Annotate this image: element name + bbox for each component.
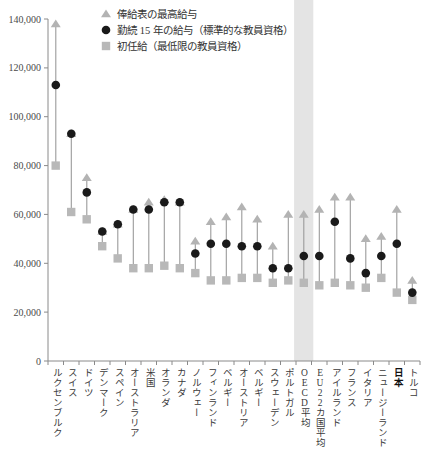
- marker-starting-salary: [284, 276, 292, 284]
- marker-starting-salary: [315, 281, 323, 289]
- x-axis-category-label: スペイン: [113, 368, 123, 408]
- marker-starting-salary: [300, 279, 308, 287]
- x-axis-category-label: EU22カ国平均: [315, 368, 325, 448]
- y-axis-tick-label: 60,000: [14, 209, 42, 220]
- x-axis-category-label: ルクセンブルク: [51, 368, 61, 438]
- marker-starting-salary: [331, 279, 339, 287]
- marker-starting-salary: [362, 284, 370, 292]
- y-axis-tick-label: 80,000: [14, 160, 42, 171]
- x-axis-category-label: ドイツ: [82, 368, 92, 398]
- y-axis-tick-label: 40,000: [14, 258, 42, 269]
- marker-top-of-scale-salary: [268, 242, 278, 250]
- marker-top-of-scale-salary: [252, 215, 262, 223]
- marker-15-years-salary: [284, 264, 293, 273]
- marker-starting-salary: [83, 215, 91, 223]
- marker-top-of-scale-salary: [392, 205, 402, 213]
- marker-top-of-scale-salary: [407, 276, 417, 284]
- marker-top-of-scale-salary: [237, 203, 247, 211]
- marker-starting-salary: [52, 161, 60, 169]
- marker-top-of-scale-salary: [345, 193, 355, 201]
- marker-15-years-salary: [222, 239, 231, 248]
- marker-15-years-salary: [408, 288, 417, 297]
- marker-15-years-salary: [253, 242, 262, 251]
- marker-15-years-salary: [393, 239, 402, 248]
- legend-triangle-icon: [101, 10, 111, 18]
- marker-starting-salary: [98, 242, 106, 250]
- marker-starting-salary: [114, 254, 122, 262]
- marker-starting-salary: [222, 276, 230, 284]
- x-axis-category-label: オーストラリア: [129, 368, 139, 438]
- y-axis-tick-label: 0: [36, 356, 41, 367]
- marker-starting-salary: [67, 208, 75, 216]
- x-axis-category-label: スイス: [67, 368, 77, 398]
- marker-top-of-scale-salary: [206, 217, 216, 225]
- x-axis-category-label: アイルランド: [330, 368, 340, 428]
- marker-15-years-salary: [346, 254, 355, 263]
- x-axis-category-label: 米国: [144, 368, 154, 388]
- marker-starting-salary: [191, 269, 199, 277]
- marker-starting-salary: [346, 281, 354, 289]
- x-axis-category-label: カナダ: [175, 368, 185, 398]
- marker-top-of-scale-salary: [376, 232, 386, 240]
- marker-top-of-scale-salary: [361, 234, 371, 242]
- y-axis-tick-label: 20,000: [14, 307, 42, 318]
- marker-starting-salary: [393, 288, 401, 296]
- marker-top-of-scale-salary: [330, 193, 340, 201]
- x-axis-category-label: スウェーデン: [268, 368, 278, 428]
- marker-starting-salary: [238, 274, 246, 282]
- marker-starting-salary: [269, 279, 277, 287]
- legend-item-label: 俸給表の最高給与: [117, 8, 197, 20]
- x-axis-category-label: OECD平均: [299, 368, 309, 428]
- marker-15-years-salary: [269, 264, 278, 273]
- x-axis-category-label: イタリア: [361, 368, 371, 408]
- x-axis-category-label: トルコ: [408, 368, 418, 398]
- marker-starting-salary: [145, 264, 153, 272]
- marker-top-of-scale-salary: [82, 173, 92, 181]
- marker-15-years-salary: [67, 130, 76, 139]
- marker-top-of-scale-salary: [314, 205, 324, 213]
- x-axis-category-label: フランス: [346, 368, 356, 408]
- x-axis-category-label: ノルウェー: [191, 368, 201, 418]
- marker-15-years-salary: [145, 205, 154, 214]
- marker-starting-salary: [253, 274, 261, 282]
- legend-item-label: 勤続 15 年の給与（標準的な教員資格）: [117, 24, 293, 36]
- marker-15-years-salary: [315, 252, 324, 261]
- x-axis-category-label: フィンランド: [206, 368, 216, 428]
- salary-scatter-chart: 020,00040,00060,00080,000100,000120,0001…: [0, 0, 427, 457]
- marker-15-years-salary: [300, 252, 309, 261]
- marker-starting-salary: [408, 296, 416, 304]
- marker-15-years-salary: [176, 198, 185, 207]
- marker-15-years-salary: [98, 227, 107, 236]
- marker-starting-salary: [377, 274, 385, 282]
- marker-15-years-salary: [129, 205, 138, 214]
- marker-15-years-salary: [83, 188, 92, 197]
- marker-top-of-scale-salary: [221, 212, 231, 220]
- marker-starting-salary: [176, 264, 184, 272]
- marker-15-years-salary: [160, 198, 169, 207]
- x-axis-category-label: デンマーク: [98, 368, 108, 418]
- marker-15-years-salary: [362, 269, 371, 278]
- x-axis-category-label: ポルトガル: [284, 368, 294, 418]
- legend-square-icon: [102, 42, 110, 50]
- x-axis-category-label: ベルギー: [253, 368, 263, 408]
- x-axis-category-label: オーストリア: [237, 368, 247, 428]
- marker-15-years-salary: [114, 220, 123, 229]
- marker-top-of-scale-salary: [190, 237, 200, 245]
- marker-15-years-salary: [207, 239, 216, 248]
- x-axis-category-label: ベルギー: [222, 368, 232, 408]
- marker-top-of-scale-salary: [51, 19, 61, 27]
- x-axis-category-label: 日本: [392, 368, 402, 388]
- marker-top-of-scale-salary: [283, 210, 293, 218]
- x-axis-category-label: ニュージーランド: [377, 368, 387, 448]
- oecd-average-highlight-band: [294, 0, 313, 361]
- marker-15-years-salary: [377, 252, 386, 261]
- marker-15-years-salary: [191, 249, 200, 258]
- marker-starting-salary: [160, 262, 168, 270]
- y-axis-tick-label: 120,000: [9, 62, 42, 73]
- marker-15-years-salary: [238, 242, 247, 251]
- marker-top-of-scale-salary: [144, 198, 154, 206]
- marker-starting-salary: [129, 264, 137, 272]
- y-axis-tick-label: 140,000: [9, 14, 42, 25]
- y-axis-tick-label: 100,000: [9, 111, 42, 122]
- x-axis-category-label: オランダ: [160, 368, 170, 408]
